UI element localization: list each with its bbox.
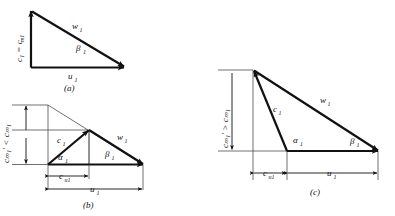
panel-b-relative-angle-subscript: 1	[112, 155, 115, 161]
panel-b-tangential-subscript: u1	[65, 177, 71, 183]
panel-b-blade-speed-label: u	[90, 184, 95, 194]
panel-a-relative-velocity-vector	[32, 12, 124, 67]
panel-c-relative-angle-subscript: 1	[357, 142, 360, 148]
panel-a-caption: (a)	[64, 83, 75, 93]
panel-a-relative-velocity-label: w	[72, 21, 78, 31]
panel-b-relative-angle-label: β	[104, 149, 110, 159]
panel-c-absolute-velocity-label: c	[273, 104, 277, 114]
panel-c-inequality-label: cₘ₁′ > cₘ₁	[220, 109, 230, 148]
panel-c-caption: (c)	[310, 187, 320, 197]
panel-b: cₘ₁′ < cₘ₁ c 1 w 1 α	[1, 105, 143, 210]
panel-c: cₘ₁′ > cₘ₁ c 1 w 1	[218, 70, 378, 197]
panel-a: c₁ = c m1 w 1 β 1 u 1 (a)	[14, 11, 124, 93]
panel-b-absolute-angle-subscript: 1	[65, 158, 68, 164]
panel-c-absolute-velocity-vector	[254, 71, 287, 151]
panel-b-caption: (b)	[83, 200, 94, 210]
panel-c-relative-velocity-label: w	[320, 95, 326, 105]
panel-c-relative-velocity-subscript: 1	[328, 101, 331, 107]
panel-a-relative-angle-label: β	[75, 43, 81, 53]
panel-b-inequality-label: cₘ₁′ < cₘ₁	[1, 124, 11, 163]
panel-a-blade-speed-subscript: 1	[75, 77, 78, 83]
panel-b-blade-speed-subscript: 1	[97, 190, 100, 196]
figure-page: c₁ = c m1 w 1 β 1 u 1 (a)	[0, 0, 395, 216]
panel-a-vertical-label: c₁ = c	[14, 40, 24, 62]
panel-a-blade-speed-label: u	[68, 71, 73, 81]
panel-a-vertical-label-group: c₁ = c m1	[14, 35, 25, 62]
panel-b-tangential-label: c	[59, 171, 63, 181]
panel-c-absolute-velocity-subscript: 1	[279, 110, 282, 116]
panel-a-relative-angle-subscript: 1	[83, 49, 86, 55]
panel-c-absolute-angle-label: α	[293, 135, 298, 145]
panel-b-absolute-velocity-subscript: 1	[63, 141, 66, 147]
panel-c-blade-speed-label: u	[327, 168, 332, 178]
panel-c-tangential-subscript: u1	[269, 174, 275, 180]
panel-a-relative-velocity-subscript: 1	[80, 27, 83, 33]
panel-b-absolute-velocity-vector	[48, 131, 89, 165]
panel-b-absolute-velocity-label: c	[57, 135, 61, 145]
panel-c-blade-speed-subscript: 1	[334, 174, 337, 180]
panel-b-relative-velocity-subscript: 1	[125, 138, 128, 144]
panel-b-absolute-angle-label: α	[58, 152, 63, 162]
panel-b-relative-velocity-vector	[89, 130, 143, 164]
panel-b-inequality-group: cₘ₁′ < cₘ₁	[1, 124, 11, 163]
velocity-triangles-figure: c₁ = c m1 w 1 β 1 u 1 (a)	[0, 0, 395, 216]
panel-c-tangential-label: c	[263, 168, 267, 178]
panel-c-inequality-group: cₘ₁′ > cₘ₁	[220, 109, 230, 148]
panel-a-vertical-label-subscript: m1	[19, 35, 25, 42]
panel-c-absolute-angle-subscript: 1	[300, 141, 303, 147]
panel-b-relative-velocity-label: w	[117, 132, 123, 142]
panel-c-relative-angle-label: β	[349, 136, 355, 146]
